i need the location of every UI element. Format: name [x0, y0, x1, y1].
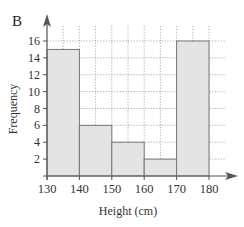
y-tick-label: 12	[28, 68, 40, 82]
x-tick-label: 130	[38, 182, 57, 196]
x-axis-title: Height (cm)	[99, 204, 157, 218]
y-tick-label: 10	[28, 85, 40, 99]
y-tick-label: 16	[28, 34, 40, 48]
y-axis-title: Frequency	[6, 84, 20, 135]
y-tick-label: 2	[34, 152, 40, 166]
x-tick-label: 180	[200, 182, 219, 196]
histogram-chart: 246810121416 130140150160170180 Height (…	[0, 0, 244, 227]
y-tick-label: 6	[34, 118, 40, 132]
x-tick-label: 140	[70, 182, 89, 196]
histogram-bar	[112, 142, 144, 176]
x-tick-label: 170	[167, 182, 186, 196]
x-axis-ticks: 130140150160170180	[38, 176, 219, 196]
histogram-bar	[47, 49, 79, 176]
x-tick-label: 160	[135, 182, 154, 196]
y-tick-label: 8	[34, 102, 40, 116]
histogram-bar	[177, 41, 209, 176]
y-tick-label: 4	[34, 135, 40, 149]
histogram-bar	[79, 125, 111, 176]
histogram-bars	[47, 41, 209, 176]
y-tick-label: 14	[28, 51, 40, 65]
histogram-bar	[144, 159, 176, 176]
y-axis-ticks: 246810121416	[28, 34, 47, 166]
x-tick-label: 150	[102, 182, 121, 196]
